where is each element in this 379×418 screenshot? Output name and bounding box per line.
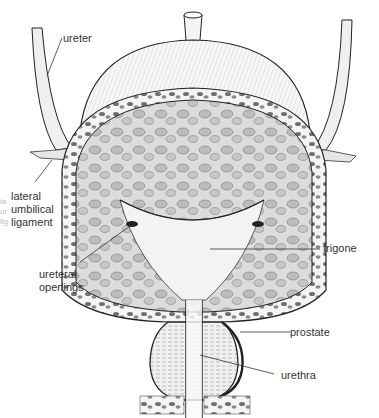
label-line: ureteral — [39, 268, 84, 281]
label-trigone: trigone — [323, 242, 357, 255]
label-urethra: urethra — [281, 369, 316, 382]
label-line: ligament — [11, 216, 54, 229]
edge-bleed-line: la — [0, 197, 8, 207]
label-line: openings — [39, 281, 84, 294]
label-line: umbilical — [11, 203, 54, 216]
label-line: lateral — [11, 190, 54, 203]
left-ureter — [32, 28, 72, 150]
pelvic-floor-right — [204, 396, 250, 414]
right-ureter — [312, 20, 352, 150]
edge-bleed-text: la ur lig — [0, 197, 8, 227]
left-ureteral-orifice — [126, 221, 138, 227]
label-lateral-umbilical-ligament: lateral umbilical ligament — [11, 190, 54, 229]
edge-bleed-line: ur — [0, 207, 8, 217]
pelvic-floor-left — [140, 396, 184, 414]
right-ureteral-orifice — [252, 221, 264, 227]
label-prostate: prostate — [290, 326, 330, 339]
label-ureteral-openings: ureteral openings — [39, 268, 84, 294]
bladder-illustration — [0, 0, 379, 418]
edge-bleed-line: lig — [0, 217, 8, 227]
label-ureter: ureter — [63, 32, 92, 45]
